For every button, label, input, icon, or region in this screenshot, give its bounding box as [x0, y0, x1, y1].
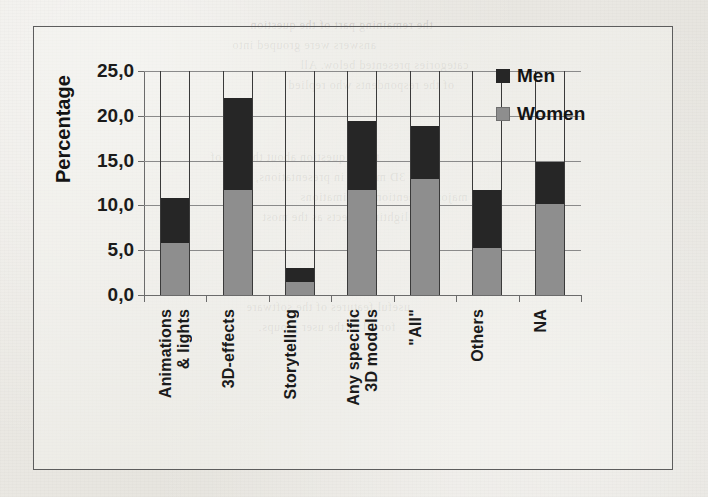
- bar-segment-men: [473, 190, 501, 248]
- x-axis-category-label: Animations & lights: [157, 309, 193, 398]
- x-axis-category-label: Others: [469, 309, 505, 362]
- legend-item-women: Women: [496, 103, 585, 125]
- bar-segment-women: [348, 190, 376, 295]
- legend-label-women: Women: [517, 103, 585, 125]
- y-axis-tick-label: 0,0: [108, 284, 134, 306]
- bar-stack: [331, 71, 393, 295]
- y-axis-tick-label: 15,0: [97, 150, 134, 172]
- y-axis-tick-label: 5,0: [108, 239, 134, 261]
- bar-segment-women: [536, 204, 564, 295]
- x-axis-tick: [394, 295, 395, 302]
- legend-label-men: Men: [517, 65, 555, 87]
- x-axis-tick: [206, 295, 207, 302]
- bar-segment-men: [536, 162, 564, 204]
- y-axis-tick-label: 20,0: [97, 105, 134, 127]
- bar-body: [160, 71, 190, 295]
- legend-item-men: Men: [496, 65, 585, 87]
- bar-segment-women: [411, 179, 439, 295]
- bar-segment-women: [286, 282, 314, 295]
- x-axis-line: [144, 295, 581, 296]
- bar-segment-men: [348, 121, 376, 190]
- bar-segment-men: [411, 126, 439, 180]
- y-axis-tick-label: 25,0: [97, 60, 134, 82]
- bar-segment-women: [224, 190, 252, 295]
- x-axis-category-label: Any specific 3D models: [345, 309, 381, 406]
- bar-stack: [206, 71, 268, 295]
- y-axis-tick-label: 10,0: [97, 194, 134, 216]
- bar-body: [347, 71, 377, 295]
- x-axis-tick: [331, 295, 332, 302]
- x-axis-tick: [144, 295, 145, 302]
- bar-stack: [269, 71, 331, 295]
- x-axis-category-label: "All": [407, 309, 443, 346]
- legend-swatch-men: [496, 69, 510, 83]
- bar-segment-men: [286, 268, 314, 281]
- bar-segment-men: [161, 198, 189, 243]
- x-axis-tick: [269, 295, 270, 302]
- chart-figure: Percentage 0,05,010,015,020,025,0 Animat…: [33, 26, 673, 470]
- chart-legend: MenWomen: [496, 65, 585, 125]
- legend-swatch-women: [496, 107, 510, 121]
- x-axis-category-label: 3D-effects: [220, 309, 256, 388]
- bar-stack: [394, 71, 456, 295]
- bar-segment-women: [161, 243, 189, 295]
- bar-stack: [144, 71, 206, 295]
- bar-body: [410, 71, 440, 295]
- bar-body: [285, 71, 315, 295]
- x-axis-tick: [456, 295, 457, 302]
- bar-segment-men: [224, 98, 252, 190]
- bar-segment-women: [473, 248, 501, 295]
- y-axis-title: Percentage: [52, 75, 75, 183]
- x-axis-category-label: NA: [532, 309, 568, 333]
- x-axis-category-label: Storytelling: [282, 309, 318, 399]
- x-axis-tick: [519, 295, 520, 302]
- x-axis-tick: [581, 295, 582, 302]
- bar-body: [223, 71, 253, 295]
